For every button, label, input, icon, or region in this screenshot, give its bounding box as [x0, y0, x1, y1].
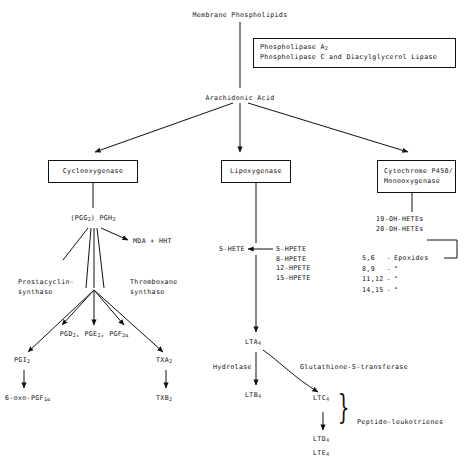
epoxide-positions: 14,15: [362, 285, 387, 296]
epoxide-dash: -: [387, 253, 394, 264]
node-arachidonic-acid: Arachidonic Acid: [205, 94, 274, 104]
oh-hete-19: 19-OH-HETEs: [376, 215, 424, 225]
node-lta4: LTA4: [245, 338, 261, 348]
label-glutathione-s-transferase: Glutathione-S-transferase: [300, 363, 408, 373]
epoxide-row: 5,6 - Epoxides: [362, 253, 432, 264]
list-epoxides: 5,6 - Epoxides 8,9 - " 11,12 - " 14,15 -…: [362, 253, 432, 296]
peptido-leukotrienes-brace: }: [338, 393, 350, 420]
label-prostacyclin-synthase: Prostacyclin- synthase: [18, 278, 74, 297]
epoxide-name: Epoxides: [394, 253, 432, 264]
node-txb2: TXB2: [156, 394, 172, 404]
epoxide-positions: 5,6: [362, 253, 387, 264]
node-ltd4: LTD4: [313, 435, 329, 445]
hpete-8: 8-HPETE: [276, 255, 311, 265]
cytochrome-line1: Cytochrome P450/: [384, 167, 453, 177]
node-membrane-phospholipids: Membrane Phospholipids: [192, 11, 287, 21]
lipoxygenase-label: Lipoxygenase: [230, 167, 282, 177]
epoxide-dash: -: [387, 285, 394, 296]
node-pgi2: PGI2: [14, 356, 30, 366]
epoxide-row: 11,12 - ": [362, 274, 432, 285]
box-cytochrome-p450: Cytochrome P450/ Monooxygenase: [377, 160, 456, 193]
epoxide-row: 8,9 - ": [362, 264, 432, 275]
label-thromboxane-synthase: Thromboxane synthase: [130, 278, 178, 297]
list-oh-hetes: 19-OH-HETEs 20-OH-HETEs: [376, 215, 424, 234]
label-peptido-leukotrienes: Peptido-leukotrienes: [357, 418, 443, 428]
node-ltc4: LTC4: [313, 394, 329, 404]
label-hydrolase: Hydrolase: [213, 363, 252, 373]
epoxide-name: ": [394, 285, 432, 296]
box-cyclooxygenase: Cyclooxygenase: [48, 160, 138, 183]
epoxide-name: ": [394, 274, 432, 285]
epoxide-row: 14,15 - ": [362, 285, 432, 296]
cyclooxygenase-label: Cyclooxygenase: [63, 167, 123, 177]
node-ltb4: LTB4: [245, 391, 261, 401]
epoxide-positions: 11,12: [362, 274, 387, 285]
hpete-15: 15-HPETE: [276, 274, 311, 284]
epoxide-positions: 8,9: [362, 264, 387, 275]
list-hpetes: 5-HPETE 8-HPETE 12-HPETE 15-HPETE: [276, 245, 311, 283]
epoxide-name: ": [394, 264, 432, 275]
node-5-hete: 5-HETE: [219, 245, 245, 255]
oh-hete-20: 20-OH-HETEs: [376, 225, 424, 235]
hpete-12: 12-HPETE: [276, 264, 311, 274]
cytochrome-line2: Monooxygenase: [384, 177, 440, 187]
node-lte4: LTE4: [313, 449, 329, 459]
phospholipase-a2-label: Phospholipase A2: [260, 43, 328, 53]
node-6-oxo-pgf1a: 6-oxo-PGF1α: [5, 394, 50, 404]
epoxide-dash: -: [387, 274, 394, 285]
node-pg-products: PGD2, PGE2, PGF2α: [60, 330, 128, 340]
node-mda-hht: MDA + HHT: [133, 237, 172, 247]
phospholipase-c-label: Phospholipase C and Diacylglycerol Lipas…: [260, 53, 437, 63]
hpete-5: 5-HPETE: [276, 245, 311, 255]
box-lipoxygenase: Lipoxygenase: [221, 160, 291, 183]
node-txa2: TXA2: [156, 356, 172, 366]
node-pgg2-pgh2: (PGG2) PGH2: [70, 214, 115, 224]
epoxide-dash: -: [387, 264, 394, 275]
arachidonic-acid-cascade-diagram: Membrane Phospholipids Phospholipase A2 …: [0, 0, 467, 471]
phospholipase-enzyme-box: Phospholipase A2 Phospholipase C and Dia…: [253, 38, 456, 68]
connector-lines: [0, 0, 467, 471]
